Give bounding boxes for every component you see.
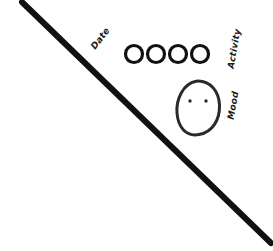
eye-right-icon	[204, 99, 207, 102]
mood-face[interactable]	[177, 81, 220, 135]
activity-circle[interactable]	[170, 46, 187, 63]
eye-left-icon	[188, 99, 191, 102]
face-outline-icon	[177, 81, 220, 135]
activity-circle-group	[126, 46, 209, 63]
activity-circle[interactable]	[192, 46, 209, 63]
activity-circle[interactable]	[126, 46, 143, 63]
activity-circle[interactable]	[148, 46, 165, 63]
sketch-canvas: Date Activity Mood	[0, 0, 273, 251]
